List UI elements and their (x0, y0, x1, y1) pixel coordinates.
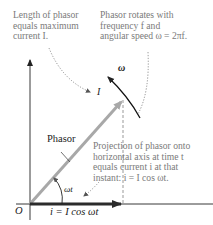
length-note-line-3: current I. (13, 31, 79, 42)
length-note: Length of phasor equals maximum current … (13, 10, 79, 42)
current-label: i = I cos ωt (50, 206, 98, 217)
rotation-note-line-3: angular speed ω = 2πf. (100, 31, 187, 42)
magnitude-label: I (97, 86, 100, 97)
origin-label: O (15, 205, 23, 216)
length-leader (49, 48, 90, 92)
phasor-label-leader (61, 152, 70, 162)
angle-label: ωt (64, 184, 73, 194)
omega-label: ω (118, 62, 125, 73)
rotation-note: Phasor rotates with frequency f and angu… (100, 10, 187, 42)
angle-arc (54, 178, 62, 204)
projection-leader (84, 182, 99, 196)
projection-note-line-4: instant: i = I cos ωt. (93, 173, 190, 184)
projection-note-line-1: Projection of phasor onto (93, 141, 190, 152)
rotation-leader (138, 52, 148, 114)
projection-note: Projection of phasor onto horizontal axi… (93, 141, 190, 183)
length-note-line-1: Length of phasor (13, 10, 79, 21)
rotation-note-line-1: Phasor rotates with (100, 10, 187, 21)
phasor-label: Phasor (47, 133, 76, 144)
